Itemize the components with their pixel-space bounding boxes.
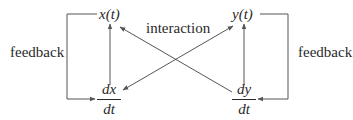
label-feedback-left: feedback (10, 45, 64, 60)
feedback-loop-right (258, 14, 288, 99)
node-y-of-t: y(t) (232, 7, 253, 22)
diagram-connectors (0, 0, 353, 120)
label-interaction: interaction (146, 21, 210, 36)
node-dy-dt: dy dt (232, 82, 256, 117)
dx-denominator: dt (103, 100, 115, 117)
dy-numerator: dy (237, 82, 251, 99)
feedback-loop-left (67, 14, 97, 99)
dy-denominator: dt (238, 100, 250, 117)
node-x-of-t: x(t) (99, 7, 120, 22)
dx-numerator: dx (102, 82, 116, 99)
label-feedback-right: feedback (298, 45, 352, 60)
node-dx-dt: dx dt (97, 82, 121, 117)
